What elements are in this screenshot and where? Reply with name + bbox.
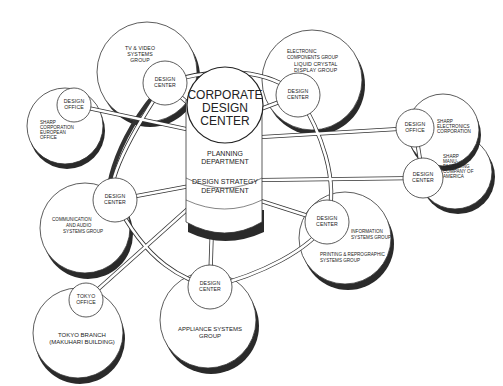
svg-text:INFORMATION: INFORMATION xyxy=(351,229,383,234)
hub-tokyo-office: TOKYO OFFICE xyxy=(69,283,103,317)
svg-text:(MAKUHARI BUILDING): (MAKUHARI BUILDING) xyxy=(49,339,115,345)
svg-text:DISPLAY GROUP: DISPLAY GROUP xyxy=(294,67,338,73)
label-tokyo: TOKYO BRANCH (MAKUHARI BUILDING) xyxy=(49,332,115,345)
corporate-title-line-2: DESIGN xyxy=(202,101,248,115)
planning-department-line-2: DEPARTMENT xyxy=(201,158,249,165)
svg-text:ELECTRONIC: ELECTRONIC xyxy=(287,49,317,54)
svg-text:APPLIANCE SYSTEMS: APPLIANCE SYSTEMS xyxy=(178,326,242,332)
hub-sharp-electronics-design-office: DESIGN OFFICE xyxy=(396,109,434,147)
svg-text:CENTER: CENTER xyxy=(316,221,338,227)
planning-department-line-1: PLANNING xyxy=(207,150,243,157)
svg-text:COMPONENTS GROUP: COMPONENTS GROUP xyxy=(287,55,338,60)
svg-text:CENTER: CENTER xyxy=(104,199,126,205)
corporate-title-line-3: CENTER xyxy=(200,114,250,128)
svg-text:SYSTEMS GROUP: SYSTEMS GROUP xyxy=(320,258,360,263)
corporate-title-line-1: CORPORATE xyxy=(187,88,262,102)
design-organization-diagram: CORPORATE DESIGN CENTER PLANNING DEPARTM… xyxy=(0,0,503,386)
svg-text:SYSTEMS GROUP: SYSTEMS GROUP xyxy=(63,229,103,234)
svg-text:CORPORATION: CORPORATION xyxy=(437,129,471,134)
svg-text:OFFICE: OFFICE xyxy=(405,127,425,133)
hub-information-design-center: DESIGN CENTER xyxy=(305,200,349,244)
svg-text:PRINTING & REPROGRAPHIC: PRINTING & REPROGRAPHIC xyxy=(320,252,386,257)
svg-text:GROUP: GROUP xyxy=(199,333,221,339)
hub-electronic-design-center: DESIGN CENTER xyxy=(276,73,320,117)
hub-sharp-america-design-center: DESIGN CENTER xyxy=(403,158,443,198)
svg-text:SYSTEMS GROUP: SYSTEMS GROUP xyxy=(351,235,391,240)
svg-text:AND AUDIO: AND AUDIO xyxy=(66,223,92,228)
svg-text:AMERICA: AMERICA xyxy=(443,174,465,179)
hub-communication-design-center: DESIGN CENTER xyxy=(93,178,137,222)
svg-text:GROUP: GROUP xyxy=(130,57,150,63)
svg-text:CENTER: CENTER xyxy=(154,82,176,88)
svg-text:CENTER: CENTER xyxy=(287,94,309,100)
hub-tv-video-design-center: DESIGN CENTER xyxy=(143,61,187,105)
svg-text:TOKYO BRANCH: TOKYO BRANCH xyxy=(58,332,106,338)
hub-appliance-design-center: DESIGN CENTER xyxy=(188,265,232,309)
design-strategy-line-2: DEPARTMENT xyxy=(201,187,249,194)
svg-text:COMMUNICATION: COMMUNICATION xyxy=(52,217,91,222)
svg-text:OFFICE: OFFICE xyxy=(64,104,84,110)
corporate-design-center-stack: CORPORATE DESIGN CENTER PLANNING DEPARTM… xyxy=(186,67,264,241)
svg-text:CENTER: CENTER xyxy=(412,177,434,183)
design-strategy-line-1: DESIGN STRATEGY xyxy=(192,178,258,185)
hub-europe-design-office: DESIGN OFFICE xyxy=(57,88,91,122)
svg-text:OFFICE: OFFICE xyxy=(40,135,57,140)
svg-text:CENTER: CENTER xyxy=(199,286,221,292)
svg-text:OFFICE: OFFICE xyxy=(76,299,96,305)
